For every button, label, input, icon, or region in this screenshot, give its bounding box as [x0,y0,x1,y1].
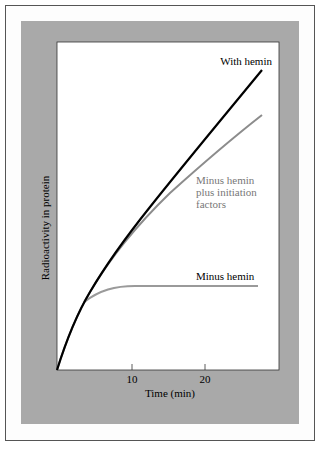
x-tick-label-20: 20 [200,373,212,385]
label-plus-if-line2: plus initiation [196,186,257,198]
label-plus-if-line3: factors [196,198,226,210]
chart: 10 20 Time (min) Radioactivity in protei… [0,0,320,449]
label-with-hemin: With hemin [220,55,272,67]
x-tick-label-10: 10 [127,373,139,385]
y-axis-label: Radioactivity in protein [39,175,51,280]
x-axis-label: Time (min) [145,387,195,400]
label-plus-if-line1: Minus hemin [196,174,255,186]
label-minus-hemin: Minus hemin [196,270,255,282]
